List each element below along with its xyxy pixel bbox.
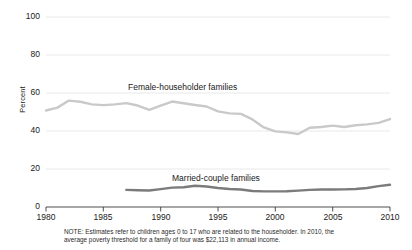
y-tick-100: 100: [14, 12, 40, 21]
x-tick-1980: 1980: [26, 213, 66, 222]
x-tick-1990: 1990: [141, 213, 181, 222]
gridlines: [46, 17, 390, 169]
y-tick-40: 40: [14, 126, 40, 135]
poverty-rate-line-chart: Percent 100 80 60 40 20 0 1980 1985 1990…: [0, 0, 412, 250]
x-tick-1995: 1995: [198, 213, 238, 222]
series-line-female-householder: [46, 101, 390, 134]
chart-note: NOTE: Estimates refer to children ages 0…: [64, 228, 404, 245]
x-axis-ticks: [46, 207, 390, 212]
x-tick-2000: 2000: [255, 213, 295, 222]
chart-note-line-2: average poverty threshold for a family o…: [64, 236, 404, 244]
y-tick-80: 80: [14, 50, 40, 59]
y-tick-60: 60: [14, 88, 40, 97]
x-tick-2005: 2005: [313, 213, 353, 222]
x-tick-2010: 2010: [370, 213, 410, 222]
y-axis-title: Percent: [18, 70, 27, 130]
x-tick-1985: 1985: [83, 213, 123, 222]
y-tick-0: 0: [14, 202, 40, 211]
series-line-married-couple: [126, 185, 390, 192]
chart-note-line-1: NOTE: Estimates refer to children ages 0…: [64, 228, 404, 236]
y-tick-20: 20: [14, 164, 40, 173]
series-label-female-householder: Female-householder families: [128, 82, 237, 92]
series-label-married-couple: Married-couple families: [172, 173, 260, 183]
